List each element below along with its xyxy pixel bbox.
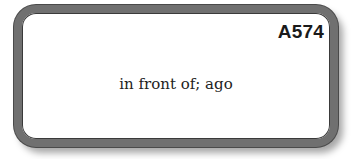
flashcard: A574 in front of; ago: [14, 5, 338, 147]
card-code-label: A574: [278, 21, 324, 43]
card-definition: in front of; ago: [22, 75, 330, 93]
flashcard-canvas: A574 in front of; ago: [0, 0, 355, 159]
